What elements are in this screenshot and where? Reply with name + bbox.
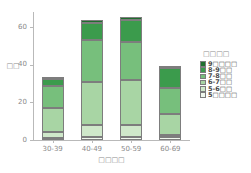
legend-swatch-icon — [200, 80, 206, 86]
stacked-bar-chart-figure: □□ 0204060 30-3940-4950-5960-69 □□□□ □□□… — [0, 0, 251, 173]
x-tick-label: 50-59 — [112, 145, 151, 153]
bar-segment[interactable] — [159, 66, 181, 68]
y-tick-mark — [30, 102, 33, 103]
bar-segment[interactable] — [42, 132, 64, 138]
stacked-bar[interactable] — [120, 12, 142, 140]
legend-swatch-icon — [200, 86, 206, 92]
x-tick-label: 30-39 — [33, 145, 72, 153]
legend-swatch-icon — [200, 67, 206, 73]
bar-segment[interactable] — [81, 23, 103, 40]
plot-area: 0204060 30-3940-4950-5960-69 — [33, 12, 190, 140]
bar-group[interactable] — [159, 12, 181, 140]
bar-segment[interactable] — [81, 125, 103, 137]
y-tick-label: 60 — [9, 24, 27, 31]
x-tick-mark — [131, 140, 132, 143]
x-tick-label: 40-49 — [72, 145, 111, 153]
bar-segment[interactable] — [42, 77, 64, 79]
x-axis-line — [33, 140, 190, 141]
y-tick-mark — [30, 65, 33, 66]
legend-swatch-icon — [200, 74, 206, 80]
stacked-bar[interactable] — [159, 12, 181, 140]
y-tick-label: 20 — [9, 99, 27, 106]
x-axis-title: □□□□ — [33, 156, 190, 164]
x-tick-mark — [170, 140, 171, 143]
stacked-bar[interactable] — [81, 12, 103, 140]
bar-segment[interactable] — [120, 125, 142, 137]
x-axis-title-text: □□□□ — [98, 156, 124, 164]
legend-entry[interactable]: 5□□□□ — [200, 92, 250, 98]
legend-swatch-icon — [200, 92, 206, 98]
y-tick-label: 0 — [9, 137, 27, 144]
legend-swatch-icon — [200, 61, 206, 67]
bar-segment[interactable] — [159, 114, 181, 136]
bar-segment[interactable] — [120, 42, 142, 80]
bar-segment[interactable] — [159, 135, 181, 137]
y-tick-mark — [30, 27, 33, 28]
legend-title: □□□□ — [203, 50, 250, 59]
bar-segment[interactable] — [42, 79, 64, 87]
bar-group[interactable] — [42, 12, 64, 140]
bar-segment[interactable] — [42, 86, 64, 108]
bar-segment[interactable] — [81, 40, 103, 81]
y-axis-line — [33, 12, 34, 140]
y-tick-label: 40 — [9, 61, 27, 68]
legend: □□□□ 9□□□□8-9□□7-8□□6-7□□5-6□□5□□□□ — [200, 50, 250, 98]
bar-segment[interactable] — [159, 68, 181, 89]
bar-segment[interactable] — [120, 20, 142, 42]
legend-entries: 9□□□□8-9□□7-8□□6-7□□5-6□□5□□□□ — [200, 61, 250, 98]
stacked-bar[interactable] — [42, 12, 64, 140]
bar-segment[interactable] — [42, 108, 64, 132]
bar-segment[interactable] — [81, 82, 103, 125]
x-tick-mark — [53, 140, 54, 143]
bar-segment[interactable] — [159, 88, 181, 113]
x-tick-mark — [92, 140, 93, 143]
bar-segment[interactable] — [81, 20, 103, 23]
bar-segment[interactable] — [120, 17, 142, 21]
legend-entry-label: 5□□□□ — [208, 92, 237, 99]
bar-segment[interactable] — [120, 80, 142, 125]
x-tick-label: 60-69 — [151, 145, 190, 153]
bar-group[interactable] — [120, 12, 142, 140]
y-tick-mark — [30, 140, 33, 141]
bar-group[interactable] — [81, 12, 103, 140]
